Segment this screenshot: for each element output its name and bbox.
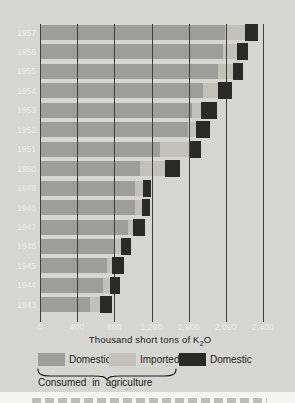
bar-segment-domestic-other <box>218 82 232 99</box>
axis-tick-label: 0 <box>23 322 57 332</box>
legend-entry-domestic-ag: Domestic <box>38 353 108 367</box>
year-label: 1957 <box>0 28 36 38</box>
bar-segment-domestic-other <box>112 257 124 274</box>
axis-tick-label: 400 <box>60 322 94 332</box>
bar-segment-domestic-other <box>201 102 217 119</box>
x-axis-title: Thousand short tons of K2O <box>35 334 265 347</box>
bar-segment-domestic-ag <box>40 200 135 215</box>
bar-segment-domestic-ag <box>40 161 140 176</box>
bar-segment-domestic-other <box>233 63 243 80</box>
gridline <box>152 24 153 318</box>
chart-panel: 04008001,2001,6002,0002,4001957195619551… <box>0 0 295 392</box>
bar-segment-domestic-other <box>100 296 112 313</box>
bar-segment-domestic-ag <box>40 25 225 40</box>
year-label: 1951 <box>0 144 36 154</box>
x-axis-title-suffix: O <box>204 334 212 345</box>
bar-segment-domestic-ag <box>40 278 103 293</box>
cutoff-caption-text <box>32 398 267 403</box>
bar-segment-domestic-ag <box>40 181 135 196</box>
bar-segment-domestic-other <box>165 160 180 177</box>
bar-segment-domestic-other <box>121 238 131 255</box>
year-label: 1945 <box>0 261 36 271</box>
year-label: 1948 <box>0 203 36 213</box>
bar-segment-imported <box>225 25 245 40</box>
year-label: 1944 <box>0 280 36 290</box>
gridline <box>226 24 227 318</box>
legend: Domestic Imported Domestic <box>0 353 295 369</box>
bar-segment-imported <box>90 297 100 312</box>
gridline <box>77 24 78 318</box>
axis-tick-label: 800 <box>97 322 131 332</box>
bar-segment-imported <box>135 181 143 196</box>
bar-segment-domestic-ag <box>40 44 223 59</box>
year-label: 1943 <box>0 300 36 310</box>
bar-segment-domestic-other <box>196 121 210 138</box>
gridline <box>40 24 41 318</box>
year-label: 1946 <box>0 241 36 251</box>
year-label: 1954 <box>0 86 36 96</box>
x-axis-title-text: Thousand short tons of K <box>89 334 200 345</box>
bar-segment-domestic-ag <box>40 142 160 157</box>
year-label: 1953 <box>0 105 36 115</box>
gridline <box>189 24 190 318</box>
year-label: 1950 <box>0 164 36 174</box>
bar-segment-imported <box>203 83 218 98</box>
bar-segment-domestic-ag <box>40 297 90 312</box>
gridline <box>263 24 264 318</box>
year-label: 1955 <box>0 66 36 76</box>
bar-segment-domestic-ag <box>40 83 203 98</box>
bar-segment-imported <box>135 200 142 215</box>
bar-segment-imported <box>160 142 190 157</box>
year-label: 1947 <box>0 222 36 232</box>
axis-tick-label: 1,200 <box>135 322 169 332</box>
bar-segment-domestic-ag <box>40 103 192 118</box>
bar-segment-domestic-ag <box>40 258 107 273</box>
imported-swatch <box>109 353 136 366</box>
bar-segment-domestic-ag <box>40 64 218 79</box>
year-label: 1956 <box>0 47 36 57</box>
legend-entry-domestic-other: Domestic <box>179 353 249 367</box>
bar-segment-domestic-other <box>237 43 248 60</box>
bar-segment-domestic-other <box>245 24 258 41</box>
brace-label: Consumed in agriculture <box>38 377 152 388</box>
legend-label: Domestic <box>210 354 252 365</box>
bar-segment-domestic-other <box>110 277 120 294</box>
bar-segment-domestic-other <box>133 219 145 236</box>
year-label: 1949 <box>0 183 36 193</box>
legend-label: Domestic <box>69 354 111 365</box>
axis-tick-label: 2,400 <box>246 322 280 332</box>
bar-segment-domestic-other <box>142 199 150 216</box>
domestic-ag-swatch <box>38 353 65 366</box>
bar-segment-domestic-other <box>190 141 201 158</box>
legend-label: Imported <box>140 354 179 365</box>
bar-segment-imported <box>192 103 201 118</box>
axis-tick-label: 1,600 <box>172 322 206 332</box>
legend-entry-imported: Imported <box>109 353 179 367</box>
bar-segment-domestic-other <box>143 180 151 197</box>
year-label: 1952 <box>0 125 36 135</box>
axis-tick-label: 2,000 <box>209 322 243 332</box>
figure: 04008001,2001,6002,0002,4001957195619551… <box>0 0 295 403</box>
domestic-other-swatch <box>179 353 206 366</box>
bar-segment-imported <box>103 278 110 293</box>
